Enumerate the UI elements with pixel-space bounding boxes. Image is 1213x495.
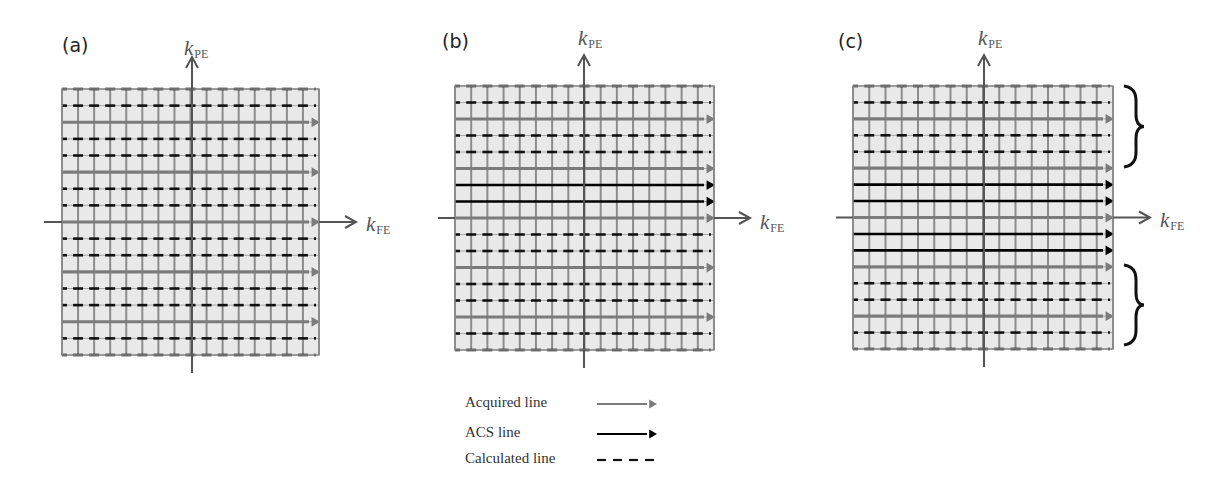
panel-a-kfe-label: kFE: [366, 212, 390, 238]
panel-c-kpe-label: kPE: [978, 26, 1002, 52]
curly-brace-icon: [1124, 86, 1144, 167]
panel-c-kfe-label: kFE: [1160, 208, 1184, 234]
legend-arrowhead-icon: [649, 430, 657, 439]
panel-b-kfe-label: kFE: [760, 210, 784, 236]
axis-subscript: FE: [770, 221, 784, 235]
axis-subscript: PE: [588, 37, 602, 51]
figure: (a) (b) (c) kPE kFE kPE kFE kPE kFE Acqu…: [0, 0, 1213, 495]
legend-acquired-label: Acquired line: [465, 394, 547, 411]
panel-a-label: (a): [62, 34, 88, 56]
panel-a-kpe-label: kPE: [184, 36, 208, 62]
axis-subscript: FE: [1170, 219, 1184, 233]
figure-graphics: [0, 0, 1213, 495]
panel-c-label: (c): [838, 30, 863, 52]
axis-symbol: k: [1160, 208, 1169, 232]
axis-symbol: k: [760, 210, 769, 234]
axis-subscript: PE: [988, 37, 1002, 51]
axis-symbol: k: [978, 26, 987, 50]
legend-calculated-label: Calculated line: [465, 450, 555, 467]
axis-symbol: k: [366, 212, 375, 236]
legend-arrowhead-icon: [649, 400, 657, 409]
axis-subscript: PE: [194, 47, 208, 61]
axis-subscript: FE: [376, 223, 390, 237]
axis-symbol: k: [184, 36, 193, 60]
panel-b-label: (b): [442, 30, 469, 52]
axis-symbol: k: [578, 26, 587, 50]
legend-acs-label: ACS line: [465, 424, 520, 441]
curly-brace-icon: [1124, 265, 1144, 345]
panel-b-kpe-label: kPE: [578, 26, 602, 52]
